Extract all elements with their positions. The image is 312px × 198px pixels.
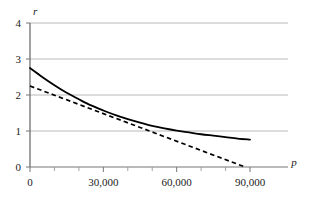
chart-plot: 030,00060,00090,000 01234 p r xyxy=(0,0,312,198)
x-tick-labels-group: 030,00060,00090,000 xyxy=(27,176,265,188)
x-tick-label: 0 xyxy=(27,176,33,188)
series-solid-curve xyxy=(30,68,250,140)
x-tick-label: 30,000 xyxy=(88,176,119,188)
y-tick-marks xyxy=(26,23,30,167)
x-tick-label: 60,000 xyxy=(162,176,193,188)
gridlines-group xyxy=(30,23,288,131)
data-series-group xyxy=(30,68,250,167)
x-tick-marks xyxy=(30,167,250,172)
y-tick-label: 1 xyxy=(16,125,22,137)
y-tick-labels-group: 01234 xyxy=(16,17,22,173)
y-tick-label: 4 xyxy=(16,17,22,29)
x-axis-label: p xyxy=(290,156,297,168)
y-axis-label: r xyxy=(33,5,38,17)
x-tick-label: 90,000 xyxy=(235,176,266,188)
chart-container: 030,00060,00090,000 01234 p r xyxy=(0,0,312,198)
y-tick-label: 0 xyxy=(16,161,22,173)
y-tick-label: 3 xyxy=(16,53,22,65)
series-dashed-line xyxy=(30,86,245,167)
y-tick-label: 2 xyxy=(16,89,22,101)
